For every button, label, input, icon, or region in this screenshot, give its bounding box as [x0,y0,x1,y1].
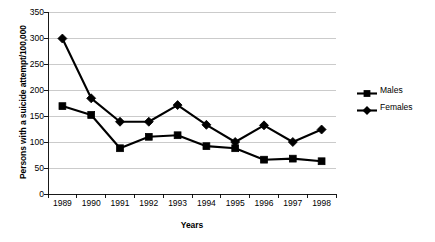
plot-svg [48,12,336,194]
data-point-marker [203,143,210,150]
line-chart: Persons with a suicide attempt/100,000 0… [0,0,435,242]
y-tick-label: 350 [18,8,44,17]
x-tick-label: 1998 [304,198,340,208]
legend-item-females[interactable]: Females [356,99,432,116]
plot-area [48,12,336,194]
x-axis-tick-labels: 1989199019911992199319941995199619971998 [48,198,336,212]
y-tick-label: 0 [18,190,44,199]
data-point-marker [288,138,297,147]
legend-item-males[interactable]: Males [356,82,432,99]
data-point-marker [317,125,326,134]
legend-label: Males [378,86,403,95]
data-point-marker [144,117,153,126]
y-tick-label: 300 [18,34,44,43]
data-point-marker [88,112,95,119]
y-tick-label: 200 [18,86,44,95]
data-point-marker [58,34,67,43]
y-axis-tick-labels: 050100150200250300350 [14,12,44,194]
diamond-marker-icon [356,102,378,113]
y-tick-label: 150 [18,112,44,121]
data-point-marker [318,158,325,165]
square-marker-icon [356,85,378,96]
data-point-marker [260,121,269,130]
legend-label: Females [378,103,413,112]
data-point-marker [174,132,181,139]
x-axis-title: Years [48,220,336,230]
data-point-marker [145,133,152,140]
y-tick-label: 250 [18,60,44,69]
data-point-marker [59,103,66,110]
data-point-marker [261,156,268,163]
data-point-marker [289,155,296,162]
y-tick-label: 100 [18,138,44,147]
series-males [59,103,325,165]
data-point-marker [117,145,124,152]
chart-legend: MalesFemales [356,82,432,116]
y-tick-label: 50 [18,164,44,173]
